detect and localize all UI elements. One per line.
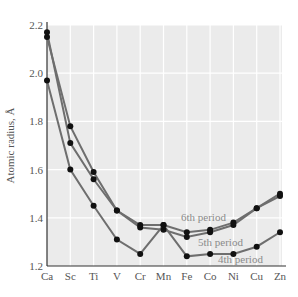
data-point: [277, 191, 283, 197]
data-point: [91, 176, 97, 182]
x-tick-label: Sc: [65, 270, 76, 282]
data-point: [230, 220, 236, 226]
x-tick-label: Mn: [156, 270, 172, 282]
x-tick-label: Cr: [135, 270, 146, 282]
y-tick-label: 2.2: [29, 19, 43, 31]
data-point: [44, 77, 50, 83]
data-point: [277, 229, 283, 235]
data-point: [91, 169, 97, 175]
x-tick-label: Cu: [250, 270, 263, 282]
series-label: 4th period: [218, 253, 263, 265]
data-point: [67, 167, 73, 173]
y-tick-label: 1.4: [29, 212, 43, 224]
x-tick-label: Ti: [89, 270, 98, 282]
x-tick-label: Fe: [181, 270, 192, 282]
data-point: [67, 123, 73, 129]
y-tick-label: 2.0: [29, 67, 43, 79]
data-point: [254, 205, 260, 211]
x-tick-label: Ca: [41, 270, 53, 282]
data-point: [184, 253, 190, 259]
data-point: [207, 227, 213, 233]
data-point: [184, 229, 190, 235]
x-tick-label: Co: [204, 270, 217, 282]
data-point: [254, 244, 260, 250]
data-point: [44, 29, 50, 35]
x-tick-labels: CaScTiVCrMnFeCoNiCuZn: [41, 270, 287, 282]
y-axis-label: Atomic radius, Å: [4, 107, 16, 183]
data-point: [67, 140, 73, 146]
x-tick-label: Ni: [228, 270, 239, 282]
x-tick-label: V: [113, 270, 121, 282]
data-point: [137, 251, 143, 257]
data-point: [137, 222, 143, 228]
y-tick-label: 1.6: [29, 164, 43, 176]
y-tick-label: 1.8: [29, 115, 43, 127]
data-point: [114, 236, 120, 242]
data-point: [91, 203, 97, 209]
y-tick-labels: 1.21.41.61.82.02.2: [29, 19, 43, 272]
data-point: [114, 208, 120, 214]
atomic-radius-chart: 1.21.41.61.82.02.2 CaScTiVCrMnFeCoNiCuZn…: [0, 0, 298, 297]
series-label: 5th period: [198, 236, 243, 248]
data-point: [161, 222, 167, 228]
data-point: [207, 251, 213, 257]
x-tick-label: Zn: [274, 270, 287, 282]
series-label: 6th period: [181, 211, 226, 223]
